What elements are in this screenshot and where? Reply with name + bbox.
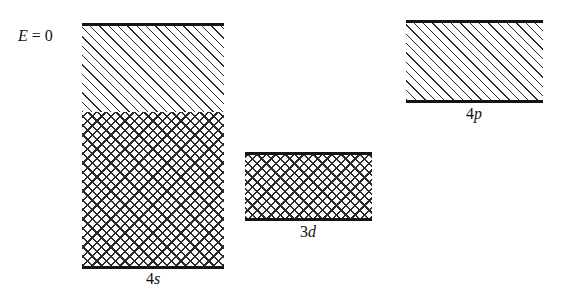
zero-energy-label: E = 0 — [18, 27, 53, 45]
band-3d-label-orbital: d — [308, 223, 316, 240]
band-4p-label-orbital: p — [474, 105, 482, 122]
band-4p-label-number: 4 — [466, 105, 474, 122]
band-4s-label: 4s — [113, 270, 193, 288]
band-4p-bottom-edge — [406, 100, 543, 103]
band-3d — [245, 155, 372, 218]
energy-symbol: E — [18, 27, 28, 44]
band-4s-top-edge — [82, 23, 224, 26]
band-3d-label-number: 3 — [300, 223, 308, 240]
band-4s — [82, 26, 224, 266]
band-3d-top-edge — [245, 152, 372, 155]
energy-value: 0 — [45, 27, 53, 44]
band-3d-bottom-edge — [245, 218, 372, 221]
band-4p-top-edge — [406, 20, 543, 23]
band-4p-empty-region — [406, 23, 543, 100]
band-4s-label-number: 4 — [146, 270, 154, 287]
band-4s-empty-region — [82, 26, 224, 112]
band-4s-label-orbital: s — [154, 270, 160, 287]
band-3d-occupied-region — [245, 155, 372, 218]
equals-sign: = — [32, 27, 45, 44]
band-3d-label: 3d — [268, 223, 348, 241]
band-4s-occupied-region — [82, 112, 224, 266]
band-4s-bottom-edge — [82, 266, 224, 269]
energy-band-diagram: E = 0 4s 3d 4p — [0, 0, 561, 298]
band-4p — [406, 23, 543, 100]
band-4p-label: 4p — [434, 105, 514, 123]
